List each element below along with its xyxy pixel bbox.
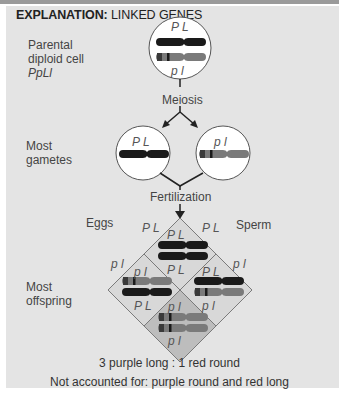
sperm-allele-1: P L [202, 221, 220, 235]
cell1-bottom-allele: P L [167, 263, 185, 277]
meiosis-arrows [166, 106, 194, 124]
gamete-right-allele: p l [214, 135, 227, 149]
offspring-line2: offspring [26, 294, 72, 308]
parental-top-allele: P L [171, 20, 189, 34]
egg-allele-2: p l [111, 257, 124, 271]
parental-label: Parental diploid cell PpLl [28, 38, 84, 80]
sperm-allele-2: p l [233, 257, 246, 271]
meiosis-label: Meiosis [162, 93, 203, 107]
gametes-line2: gametes [26, 153, 72, 167]
cell3-top-allele: P L [202, 265, 220, 279]
gametes-label: Most gametes [26, 139, 72, 167]
fertilization-label: Fertilization [150, 190, 211, 204]
parental-bottom-allele: p l [171, 64, 184, 78]
egg-allele-1: P L [142, 221, 160, 235]
cell4-top-allele: p l [168, 300, 181, 314]
parental-line1: Parental [28, 38, 84, 52]
parental-line2: diploid cell [28, 52, 84, 66]
cell1-top-allele: P L [167, 228, 185, 242]
eggs-label: Eggs [86, 216, 113, 230]
parental-genotype: PpLl [28, 66, 84, 80]
ratio-text: 3 purple long : 1 red round [0, 356, 339, 370]
gamete-left-allele: P L [132, 135, 150, 149]
note-text: Not accounted for: purple round and red … [0, 375, 339, 389]
gametes-line1: Most [26, 139, 72, 153]
cell3-bottom-allele: p l [202, 299, 215, 313]
cell2-bottom-allele: P L [134, 299, 152, 313]
offspring-label: Most offspring [26, 280, 72, 308]
cell2-top-allele: p l [134, 265, 147, 279]
offspring-line1: Most [26, 280, 72, 294]
cell4-bottom-allele: p l [168, 334, 181, 348]
sperm-label: Sperm [236, 218, 271, 232]
